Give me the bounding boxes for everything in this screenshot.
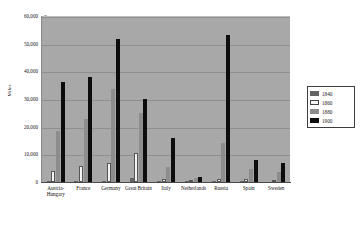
chart-legend: 1840186018801900 bbox=[307, 86, 355, 128]
bar bbox=[221, 143, 225, 182]
y-axis-tick-label: 10,000 bbox=[6, 151, 38, 157]
legend-label: 1840 bbox=[322, 91, 332, 97]
bar-group bbox=[125, 17, 153, 182]
legend-label: 1880 bbox=[322, 109, 332, 115]
y-axis-tick-label: 50,000 bbox=[6, 41, 38, 47]
bar-group bbox=[235, 17, 263, 182]
bar-group bbox=[152, 17, 180, 182]
bar bbox=[116, 39, 120, 182]
y-axis-tick-label: 60,000 bbox=[6, 13, 38, 19]
bar bbox=[171, 138, 175, 182]
legend-label: 1900 bbox=[322, 118, 332, 124]
legend-swatch-icon bbox=[310, 100, 319, 106]
legend-swatch-icon bbox=[310, 109, 319, 115]
y-axis-tick-label: 20,000 bbox=[6, 124, 38, 130]
bar bbox=[134, 153, 138, 182]
bar bbox=[226, 35, 230, 182]
bar bbox=[254, 160, 258, 182]
bar bbox=[88, 77, 92, 182]
legend-label: 1860 bbox=[322, 100, 332, 106]
y-axis-tick-label: 0 bbox=[6, 179, 38, 185]
plot-area bbox=[42, 16, 290, 182]
bar bbox=[56, 131, 60, 182]
bar bbox=[277, 172, 281, 182]
legend-item[interactable]: 1840 bbox=[310, 89, 352, 98]
bar bbox=[107, 163, 111, 182]
legend-item[interactable]: 1860 bbox=[310, 98, 352, 107]
bar-group bbox=[97, 17, 125, 182]
bar bbox=[84, 119, 88, 182]
x-axis-line bbox=[41, 182, 291, 183]
x-axis-tick-label: Sweden bbox=[259, 185, 293, 191]
legend-swatch-icon bbox=[310, 91, 319, 97]
bar-group bbox=[262, 17, 290, 182]
bar-group bbox=[180, 17, 208, 182]
bar bbox=[249, 169, 253, 182]
bar bbox=[79, 166, 83, 182]
bar bbox=[61, 82, 65, 182]
y-axis-tick-label: 40,000 bbox=[6, 68, 38, 74]
bar bbox=[281, 163, 285, 182]
legend-item[interactable]: 1900 bbox=[310, 116, 352, 125]
bar bbox=[166, 167, 170, 182]
x-axis-tick-labels: Austria-​HungaryFranceGermanyGreat Brita… bbox=[42, 185, 290, 223]
bar-group bbox=[207, 17, 235, 182]
bar bbox=[111, 89, 115, 183]
bar-chart: Miles 010,00020,00030,00040,00050,00060,… bbox=[0, 0, 361, 227]
bar bbox=[51, 171, 55, 182]
bar bbox=[143, 99, 147, 182]
bar-group bbox=[70, 17, 98, 182]
y-axis-tick-labels: 010,00020,00030,00040,00050,00060,000 bbox=[6, 16, 38, 182]
bar bbox=[139, 113, 143, 182]
bar-group bbox=[42, 17, 70, 182]
legend-swatch-icon bbox=[310, 118, 319, 124]
legend-item[interactable]: 1880 bbox=[310, 107, 352, 116]
y-axis-tick-label: 30,000 bbox=[6, 96, 38, 102]
